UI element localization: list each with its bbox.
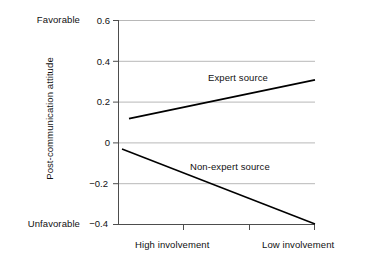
y-tick-label-0: 0.6 bbox=[84, 15, 110, 26]
chart-figure: Favorable Unfavorable Post-communication… bbox=[0, 0, 377, 269]
x-category-label-high-involvement: High involvement bbox=[135, 239, 209, 250]
series-annotation-expert-source: Expert source bbox=[208, 72, 268, 83]
y-tick-label-2: 0.2 bbox=[84, 96, 110, 107]
x-category-label-low-involvement: Low involvement bbox=[262, 239, 334, 250]
series-annotation-non-expert-source: Non-expert source bbox=[190, 161, 270, 172]
y-tick-label-5: −0.4 bbox=[82, 218, 108, 229]
series-line-expert-source bbox=[129, 80, 315, 119]
y-axis-ticks bbox=[113, 21, 118, 225]
y-tick-label-4: −0.2 bbox=[82, 178, 108, 189]
y-tick-label-3: 0 bbox=[84, 137, 110, 148]
y-tick-label-1: 0.4 bbox=[84, 56, 110, 67]
y-axis-title: Post-communication attitude bbox=[44, 24, 55, 214]
y-axis-anchor-unfavorable: Unfavorable bbox=[2, 218, 80, 229]
x-axis-ticks bbox=[184, 225, 315, 231]
